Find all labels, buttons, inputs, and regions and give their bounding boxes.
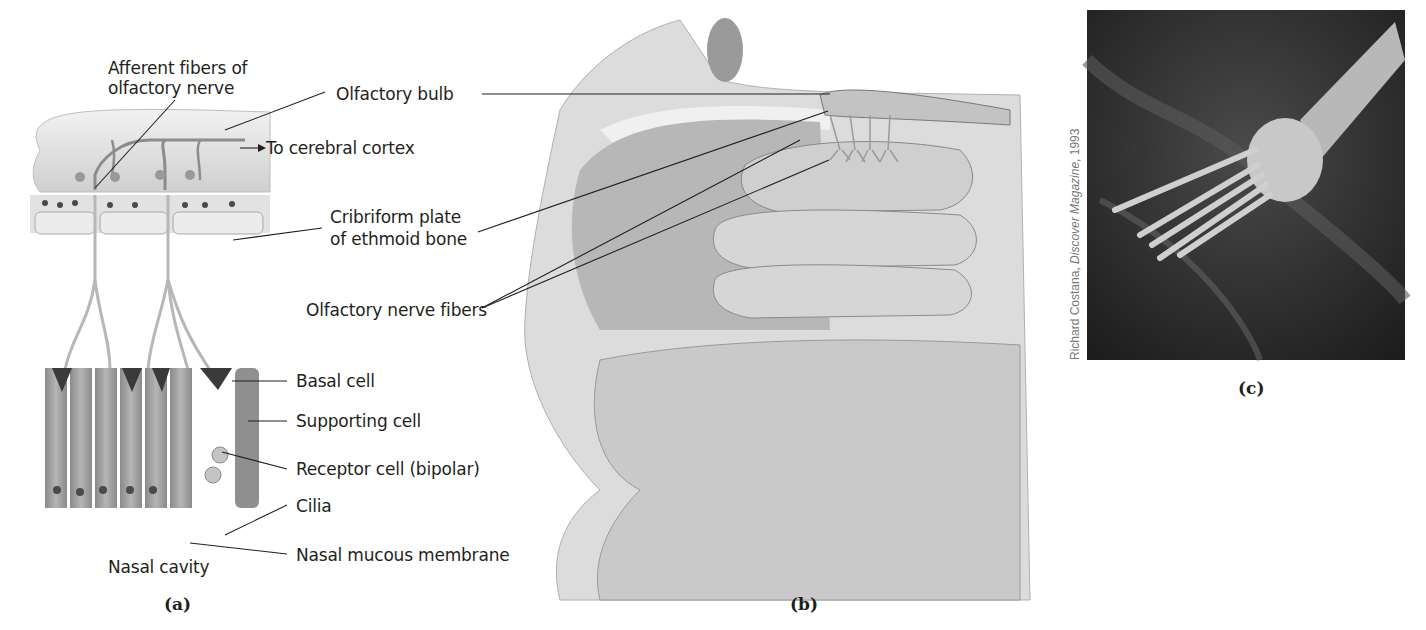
label-cilia: Cilia <box>296 496 331 516</box>
label-nasal-mucous-membrane: Nasal mucous membrane <box>296 545 509 565</box>
label-afferent-fibers-line2: olfactory nerve <box>108 78 234 98</box>
label-basal-cell: Basal cell <box>296 371 375 391</box>
label-supporting-cell: Supporting cell <box>296 411 421 431</box>
panel-letter-c: (c) <box>1238 378 1264 398</box>
label-nasal-cavity: Nasal cavity <box>108 557 209 577</box>
label-olfactory-bulb: Olfactory bulb <box>336 84 454 104</box>
photo-credit-year: , 1993 <box>1068 129 1082 162</box>
panel-letter-a: (a) <box>164 594 191 614</box>
photo-credit: Richard Costana, Discover Magazine, 1993 <box>1068 129 1082 360</box>
label-to-cerebral-cortex: To cerebral cortex <box>266 138 415 158</box>
panel-b-illustration <box>478 18 1030 600</box>
label-cribriform-plate-line2: of ethmoid bone <box>330 229 467 249</box>
label-afferent-fibers-line1: Afferent fibers of <box>108 58 247 78</box>
panel-a-illustration <box>30 92 325 554</box>
label-receptor-cell: Receptor cell (bipolar) <box>296 459 480 479</box>
photo-credit-name: Richard Costana, <box>1068 264 1082 360</box>
label-olfactory-nerve-fibers: Olfactory nerve fibers <box>306 300 487 320</box>
panel-c-photo <box>1087 10 1405 360</box>
photo-credit-publication: Discover Magazine <box>1068 162 1082 264</box>
panel-letter-b: (b) <box>790 594 818 614</box>
label-cribriform-plate-line1: Cribriform plate <box>330 207 461 227</box>
